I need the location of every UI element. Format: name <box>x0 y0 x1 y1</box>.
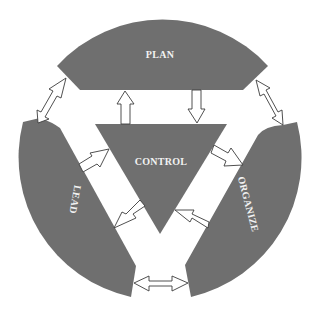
arrow-left-icon <box>175 210 209 228</box>
management-cycle-diagram: PLAN CONTROL LEAD ORGANIZE <box>0 0 318 310</box>
plan-label: PLAN <box>146 49 175 60</box>
arrow-organize-control <box>175 210 209 228</box>
arrow-lead-organize <box>134 276 188 291</box>
arrow-lead-control <box>79 149 109 172</box>
arrow-control-organize <box>211 145 243 166</box>
control-label: CONTROL <box>135 156 188 167</box>
control-node: CONTROL <box>95 124 227 234</box>
arrow-plan-control <box>188 90 205 123</box>
double-arrow-icon <box>256 80 283 125</box>
arrow-right-icon <box>79 149 109 172</box>
arrow-control-lead <box>114 200 145 228</box>
double-arrow-icon <box>134 276 188 291</box>
arrow-control-plan <box>117 91 134 124</box>
arrow-down-icon <box>188 90 205 123</box>
arrow-right-icon <box>211 145 243 166</box>
arrow-plan-lead <box>37 78 66 123</box>
arrow-plan-organize <box>256 80 283 125</box>
double-arrow-icon <box>37 78 66 123</box>
arrow-left-icon <box>114 200 145 228</box>
arrow-up-icon <box>117 91 134 124</box>
plan-node: PLAN <box>57 20 268 90</box>
control-segment <box>95 124 227 234</box>
